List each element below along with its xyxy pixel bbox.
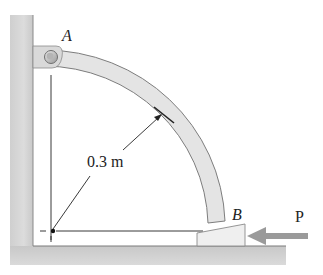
label-a: A bbox=[61, 27, 72, 44]
statics-diagram: A B 0.3 m P bbox=[0, 0, 323, 275]
pin-a bbox=[45, 51, 58, 64]
force-p-arrow bbox=[247, 227, 308, 245]
center-point bbox=[51, 229, 55, 233]
wall bbox=[10, 15, 33, 265]
wedge-b bbox=[197, 224, 245, 246]
label-force-p: P bbox=[295, 208, 304, 225]
label-b: B bbox=[232, 206, 242, 223]
label-radius: 0.3 m bbox=[87, 153, 124, 170]
floor bbox=[10, 246, 286, 265]
curved-member bbox=[33, 46, 225, 223]
